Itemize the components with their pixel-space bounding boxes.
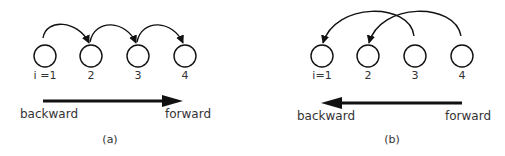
panel-b-forward-label: forward bbox=[445, 109, 491, 123]
node-label-b-2: 2 bbox=[365, 69, 372, 82]
panel-b-direction-arrow bbox=[321, 97, 462, 109]
node-a-4 bbox=[174, 45, 196, 67]
node-label-a-3: 3 bbox=[135, 69, 142, 82]
diagram-canvas bbox=[0, 0, 505, 156]
node-label-b-1: i=1 bbox=[312, 69, 331, 82]
node-a-2 bbox=[80, 45, 102, 67]
panel-a-forward-label: forward bbox=[165, 107, 211, 121]
panel-a-direction-arrow bbox=[43, 95, 183, 107]
node-b-4 bbox=[451, 45, 473, 67]
arc-a-3-4 bbox=[137, 25, 183, 43]
panel-b-backward-label: backward bbox=[297, 109, 355, 123]
node-label-a-2: 2 bbox=[88, 69, 95, 82]
arc-b-3-1 bbox=[323, 11, 414, 43]
arc-a-1-2 bbox=[43, 24, 89, 43]
panel-a-backward-label: backward bbox=[20, 107, 78, 121]
panel-a-arcs bbox=[43, 24, 183, 43]
panel-a-nodes bbox=[34, 45, 196, 67]
node-label-a-1: i =1 bbox=[34, 69, 57, 82]
panel-b-caption: (b) bbox=[384, 133, 400, 146]
node-b-3 bbox=[404, 45, 426, 67]
panel-b-arcs bbox=[323, 11, 461, 43]
node-a-1 bbox=[34, 45, 56, 67]
panel-a-caption: (a) bbox=[102, 133, 117, 146]
node-label-a-4: 4 bbox=[182, 69, 189, 82]
node-b-2 bbox=[357, 45, 379, 67]
panel-b-nodes bbox=[311, 45, 473, 67]
arc-b-4-2 bbox=[369, 11, 461, 43]
node-b-1 bbox=[311, 45, 333, 67]
node-label-b-4: 4 bbox=[459, 69, 466, 82]
node-a-3 bbox=[127, 45, 149, 67]
node-label-b-3: 3 bbox=[412, 69, 419, 82]
arc-a-2-3 bbox=[90, 25, 136, 43]
